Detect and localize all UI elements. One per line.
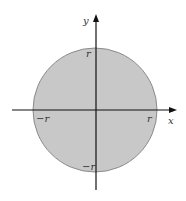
x-axis-arrow-icon <box>169 107 177 113</box>
y-axis-arrow-icon <box>93 14 99 22</box>
label-bottom-neg-r: −r <box>82 161 96 172</box>
x-axis-label: x <box>168 115 174 126</box>
disk-diagram: x y r r −r −r <box>0 0 186 201</box>
label-left-neg-r: −r <box>36 113 50 124</box>
y-axis-label: y <box>82 15 89 26</box>
